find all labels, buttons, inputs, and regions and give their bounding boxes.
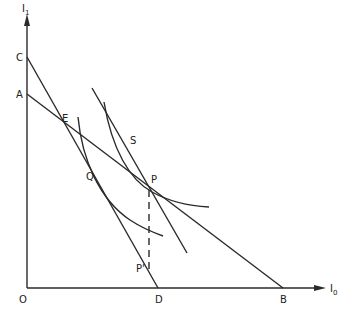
x-axis-arrow-icon xyxy=(314,285,326,291)
axes xyxy=(24,14,326,291)
label-a: A xyxy=(16,89,23,100)
x-axis-label: I0 xyxy=(330,283,337,297)
labels: I1 I0 C A E Q P S P' O D B xyxy=(16,3,337,305)
indifference-curve-diagram: I1 I0 C A E Q P S P' O D B xyxy=(0,0,351,316)
label-e: E xyxy=(62,113,68,124)
label-q: Q xyxy=(86,171,94,182)
label-p: P xyxy=(151,174,157,185)
label-d: D xyxy=(155,294,163,305)
indifference-curve-p xyxy=(104,102,209,207)
y-axis-label: I1 xyxy=(22,3,29,17)
label-b: B xyxy=(280,294,287,305)
label-c: C xyxy=(16,52,23,63)
label-p-prime: P' xyxy=(136,263,145,274)
label-s: S xyxy=(130,135,136,146)
label-origin: O xyxy=(19,294,27,305)
